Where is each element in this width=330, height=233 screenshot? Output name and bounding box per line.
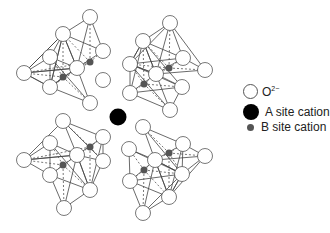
oxygen-anion [136,206,151,221]
oxygen-anion [198,63,213,78]
a-site-cation [110,109,127,126]
oxygen-anion [176,51,191,66]
oxygen-anion [198,149,213,164]
oxygen-anion [176,137,191,152]
oxygen-anion [175,80,190,95]
b-site-cation [141,81,148,88]
a-site-symbol-icon [243,104,259,120]
oxygen-anion [96,73,111,88]
oxygen-anion [162,190,177,205]
oxygen-anion [43,136,58,151]
oxygen-anion [56,114,71,129]
oxygen-anion [96,130,111,145]
oxygen-anion [149,67,164,82]
oxygen-anion [96,44,111,59]
oxygen-anion [83,10,98,25]
oxygen-anion [136,34,151,49]
oxygen-anion [17,66,32,81]
legend-label-b-site: B site cation [261,120,326,134]
oxygen-anion [70,148,85,163]
oxygen-anion [148,153,163,168]
legend-item-oxygen: O2− [243,84,279,99]
oxygen-anion [83,96,98,111]
oxygen-anion [17,153,32,168]
oxygen-anion [163,16,178,31]
b-site-cation [87,59,94,66]
legend-item-a-site: A site cation [243,104,330,120]
legend-label-oxygen: O2− [262,85,279,99]
legend-label-a-site: A site cation [265,105,330,119]
a-site-cation [110,109,127,126]
oxygen-anion [175,167,190,182]
perovskite-structure-diagram [0,0,230,233]
b-site-cation [60,162,67,169]
oxygen-anion [123,174,138,189]
oxygen-anion [122,142,137,157]
oxygen-anion [56,27,71,42]
oxygen-anion [70,61,85,76]
oxygen-anion [96,154,111,169]
oxygen-anion [83,183,98,198]
legend-item-b-site: B site cation [243,120,326,134]
b-site-cation [141,167,148,174]
oxygen-anion [43,168,58,183]
b-site-cation [166,65,173,72]
b-site-cation [166,150,173,157]
oxygen-anion [163,103,178,118]
oxygen-anion [43,80,58,95]
oxygen-symbol-icon [243,84,258,99]
oxygen-anion [123,57,138,72]
b-site-symbol-icon [247,124,254,131]
oxygen-anion [123,86,138,101]
oxygen-anion [43,50,58,65]
oxygen-anion [136,120,151,135]
oxygen-anion [57,201,72,216]
b-site-cation [60,74,67,81]
b-site-cation [87,144,94,151]
